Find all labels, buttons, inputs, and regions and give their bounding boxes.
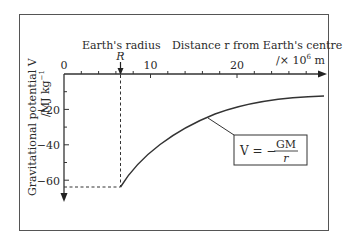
- x-axis-unit: /× 106 m: [276, 53, 325, 67]
- y-axis-unit: /MJ kg−1: [38, 70, 52, 117]
- annotation-leader: [208, 118, 234, 135]
- y-tick-minus60: −60: [37, 175, 60, 188]
- formula-denominator: r: [283, 152, 289, 165]
- R-label: R: [115, 50, 124, 63]
- x-tick-10: 10: [144, 59, 158, 72]
- x-axis-title: Distance r from Earth's centre: [172, 39, 342, 52]
- x-tick-0: 0: [61, 59, 68, 72]
- potential-chart: 0 10 20 −20 −40 −60 Gravitational potent…: [0, 0, 344, 244]
- y-tick-minus40: −40: [37, 139, 60, 152]
- formula-lhs: V = −: [239, 144, 276, 158]
- x-axis-arrow-icon: [318, 71, 327, 78]
- x-tick-20: 20: [230, 59, 244, 72]
- svg-text:/MJ kg−1: /MJ kg−1: [38, 70, 52, 117]
- y-axis-arrow-icon: [61, 193, 68, 202]
- formula-numerator: GM: [276, 138, 296, 151]
